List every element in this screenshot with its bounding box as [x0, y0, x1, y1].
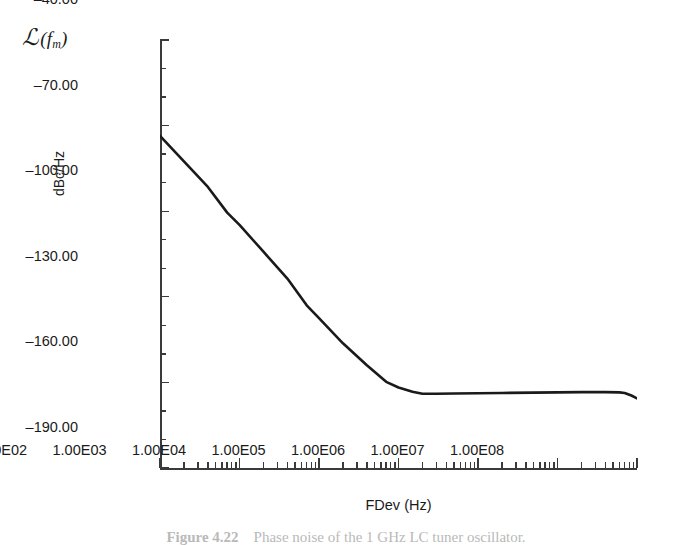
caption-label: Figure 4.22 — [166, 529, 238, 545]
x-axis-title: FDev (Hz) — [160, 497, 637, 513]
y-tick-label: –100.00 — [26, 162, 78, 178]
y-tick-label: –160.00 — [26, 333, 78, 349]
x-tick-label: 1.00E02 — [0, 442, 27, 458]
x-tick-label: 1.00E08 — [450, 442, 504, 458]
x-tick-label: 1.00E05 — [211, 442, 265, 458]
phase-noise-curve — [160, 40, 637, 468]
x-tick-label: 1.00E07 — [370, 442, 424, 458]
y-tick-label: –130.00 — [26, 248, 78, 264]
y-axis-tick-labels: –40.00–70.00–100.00–130.00–160.00–190.00 — [0, 0, 78, 428]
y-tick-label: –190.00 — [26, 419, 78, 435]
x-tick-label: 1.00E06 — [291, 442, 345, 458]
y-tick-label: –40.00 — [34, 0, 78, 7]
y-tick-label: –70.00 — [34, 77, 78, 93]
x-axis-line — [160, 468, 637, 470]
figure-container: ℒ(fm) dBc/Hz –40.00–70.00–100.00–130.00–… — [0, 0, 692, 545]
x-tick-label: 1.00E03 — [52, 442, 106, 458]
plot-area — [160, 40, 637, 468]
figure-caption: Figure 4.22 Phase noise of the 1 GHz LC … — [0, 529, 692, 545]
x-tick-label: 1.00E04 — [132, 442, 186, 458]
caption-text: Phase noise of the 1 GHz LC tuner oscill… — [254, 529, 526, 545]
